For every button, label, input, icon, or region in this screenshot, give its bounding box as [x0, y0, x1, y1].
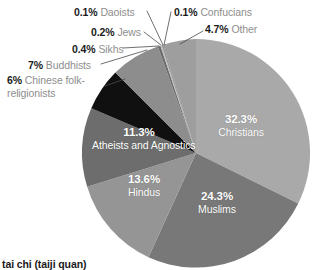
leader-line-sikhs	[123, 46, 159, 48]
callout-pct-sikhs: 0.4%	[72, 43, 96, 55]
slice-label-hindus: 13.6% Hindus	[108, 173, 180, 198]
callout-pct-other: 4.7%	[205, 23, 229, 35]
slice-pct-muslims: 24.3%	[201, 190, 233, 202]
callout-label-sikhs: 0.4% Sikhs	[72, 43, 124, 56]
slice-pct-hindus: 13.6%	[128, 173, 160, 185]
callout-name-confucians: Confucians	[200, 6, 252, 18]
callout-label-confucians: 0.1% Confucians	[174, 6, 252, 19]
pie-slices	[82, 39, 310, 268]
callout-label-chinese-folk-religionists: 6% Chinese folk-religionists	[7, 74, 102, 99]
callout-name-sikhs: Sikhs	[98, 43, 123, 55]
slice-label-atheists-agnostics: 11.3% Atheists and Agnostics	[92, 126, 186, 151]
callout-label-buddhists: 7% Buddhists	[28, 59, 91, 72]
callout-name-daoists: Daoists	[100, 6, 134, 18]
leader-line-jews	[144, 32, 161, 45]
callout-pct-jews: 0.2%	[91, 26, 115, 38]
slice-name-atheists-agnostics: Atheists and Agnostics	[92, 139, 195, 151]
slice-pct-christians: 32.3%	[225, 113, 257, 125]
callout-pct-confucians: 0.1%	[174, 6, 198, 18]
page-caption: tai chi (taiji quan)	[2, 258, 86, 270]
callout-label-daoists: 0.1% Daoists	[74, 6, 135, 19]
callout-pct-daoists: 0.1%	[74, 6, 98, 18]
slice-name-hindus: Hindus	[128, 186, 160, 198]
callout-label-jews: 0.2% Jews	[91, 26, 141, 39]
slice-pct-atheists-agnostics: 11.3%	[123, 126, 154, 138]
callout-pct-chinese-folk-religionists: 6%	[7, 74, 22, 86]
slice-label-christians: 32.3% Christians	[205, 113, 277, 138]
leader-line-daoists	[147, 11, 163, 45]
slice-label-muslims: 24.3% Muslims	[181, 190, 253, 215]
callout-name-buddhists: Buddhists	[46, 59, 91, 71]
callout-label-other: 4.7% Other	[205, 23, 257, 36]
callout-pct-buddhists: 7%	[28, 59, 43, 71]
callout-name-jews: Jews	[117, 26, 141, 38]
slice-name-muslims: Muslims	[198, 203, 236, 215]
callout-name-other: Other	[231, 23, 257, 35]
slice-name-christians: Christians	[218, 126, 264, 138]
leader-line-confucians	[164, 12, 171, 45]
